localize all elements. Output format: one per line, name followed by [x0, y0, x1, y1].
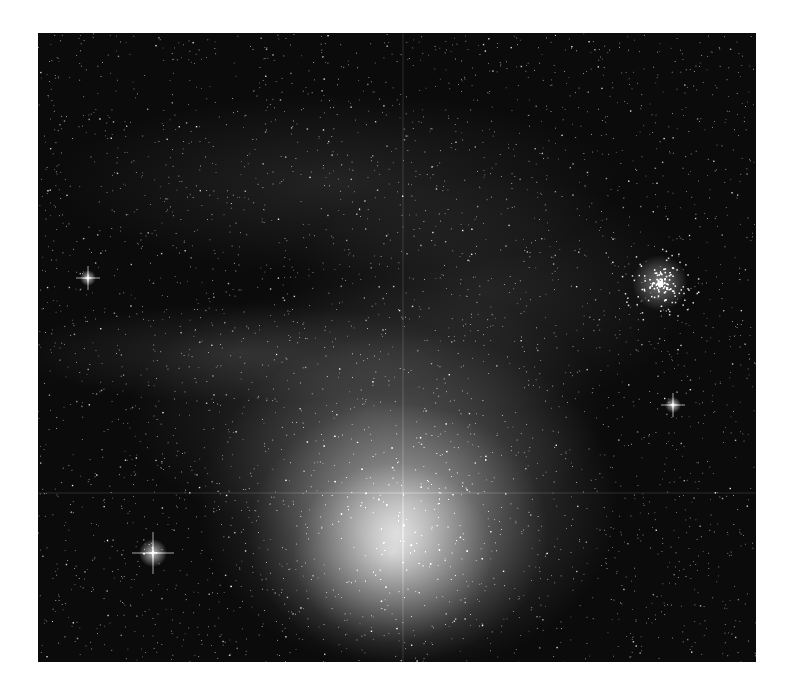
star-field — [38, 33, 756, 662]
nebula-photograph — [38, 33, 756, 662]
